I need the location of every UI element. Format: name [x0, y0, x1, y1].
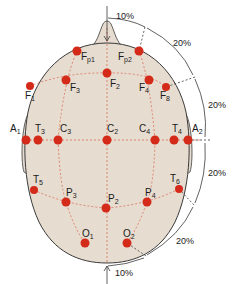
measure-label: 20%: [208, 100, 226, 110]
measure-label: 10%: [115, 268, 133, 278]
eeg-diagram: 10% 20% 20% 20% 20% 10% Fp1 Fp2 F1 F3: [0, 0, 236, 284]
measure-label: 20%: [176, 236, 194, 246]
electrode-f2: [103, 69, 112, 78]
electrode-t6: [175, 185, 183, 193]
electrode-p2: [102, 204, 111, 213]
electrode-p4: [143, 198, 152, 207]
measure-label: 20%: [173, 38, 191, 48]
label-a1: A1: [10, 123, 21, 135]
measure-label: 10%: [116, 11, 134, 21]
electrode-a2: [184, 136, 193, 145]
electrode-a1: [22, 136, 31, 145]
electrode-fp2: [135, 47, 144, 56]
electrode-c2: [103, 136, 112, 145]
electrode-p3: [62, 198, 71, 207]
electrode-t4: [170, 136, 179, 145]
label-a2: A2: [192, 123, 203, 135]
electrode-f1: [26, 82, 34, 90]
electrode-c4: [151, 136, 160, 145]
electrode-f4: [145, 76, 154, 85]
measure-label: 20%: [208, 168, 226, 178]
electrode-t5: [30, 186, 38, 194]
electrode-c3: [54, 136, 63, 145]
electrode-t3: [34, 136, 43, 145]
label-f1: F1: [25, 90, 35, 102]
electrode-o1: [81, 239, 90, 248]
